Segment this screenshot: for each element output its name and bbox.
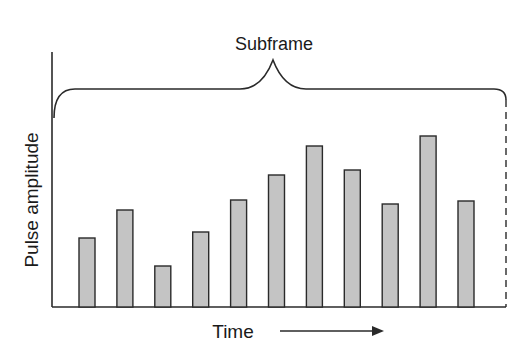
subframe-label: Subframe xyxy=(235,34,313,54)
pulse-bar xyxy=(458,201,474,307)
time-arrow-icon xyxy=(280,326,384,336)
pulse-amplitude-diagram: Subframe Pulse amplitude Time xyxy=(0,0,530,350)
pulse-bar xyxy=(117,210,133,307)
x-axis-label: Time xyxy=(212,321,254,342)
subframe-brace xyxy=(54,60,506,118)
pulse-bars xyxy=(79,136,474,307)
pulse-bar xyxy=(231,200,247,307)
pulse-bar xyxy=(155,266,171,307)
pulse-bar xyxy=(306,146,322,307)
pulse-bar xyxy=(382,204,398,307)
pulse-bar xyxy=(79,238,95,307)
pulse-bar xyxy=(344,170,360,307)
y-axis-label: Pulse amplitude xyxy=(21,132,42,267)
pulse-bar xyxy=(420,136,436,307)
pulse-bar xyxy=(269,175,285,307)
pulse-bar xyxy=(193,232,209,307)
